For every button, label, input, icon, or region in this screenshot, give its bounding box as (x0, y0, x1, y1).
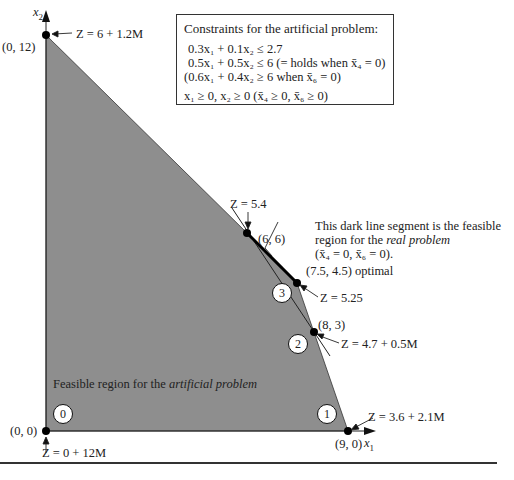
constraints-title: Constraints for the artificial problem: (184, 21, 393, 37)
step-circle-3: 3 (272, 283, 292, 303)
constraint-row-3: (0.6x₁ + 0.4x₂ ≥ 6 when x̄₆ = 0) (184, 70, 393, 84)
x-axis-arrow-icon (364, 427, 376, 435)
vertex-8-3 (310, 328, 318, 336)
constraint-row-2: 0.5x₁ + 0.5x₂ ≤ 6 (= holds when x̄₄ = 0) (188, 56, 393, 70)
constraints-box: Constraints for the artificial problem: … (176, 14, 394, 105)
coord-label-7.5-4.5: (7.5, 4.5) optimal (306, 264, 393, 278)
y-axis-arrow-icon (42, 10, 50, 22)
bottom-divider (0, 462, 497, 464)
coord-label-6-6: (6, 6) (258, 232, 285, 246)
segment-annotation-line2: region for the real problem (315, 233, 450, 247)
vertex-0-12 (42, 31, 50, 39)
vertex-9-0 (344, 427, 352, 435)
vertex-0-0 (42, 427, 50, 435)
step-circle-1: 1 (317, 404, 337, 424)
coord-label-0-0: (0, 0) (10, 424, 37, 438)
step-circle-0: 0 (53, 404, 73, 424)
vertex-7.5-4.5 (293, 279, 301, 287)
feasible-region-label: Feasible region for the artificial probl… (53, 377, 257, 391)
coord-label-8-3: (8, 3) (318, 318, 345, 332)
vertex-6-6 (243, 229, 251, 237)
segment-annotation-line3: (x̄₄ = 0, x̄₆ = 0). (315, 247, 393, 261)
z-label-6-6: Z = 5.4 (230, 197, 267, 211)
segment-annotation-line1: This dark line segment is the feasible (315, 219, 501, 233)
z-label-9-0: Z = 3.6 + 2.1M (368, 410, 445, 424)
y-axis-label: x2 (33, 5, 43, 24)
coord-label-9-0: (9, 0) (335, 437, 362, 451)
z-label-7.5-4.5: Z = 5.25 (320, 291, 363, 305)
coord-label-0-12: (0, 12) (2, 40, 35, 54)
z-label-0-0: Z = 0 + 12M (42, 446, 106, 460)
constraint-row-4: x₁ ≥ 0, x₂ ≥ 0 (x̄₄ ≥ 0, x̄₆ ≥ 0) (184, 89, 393, 103)
constraint-row-1: 0.3x₁ + 0.1x₂ ≤ 2.7 (188, 42, 393, 56)
x-axis-label: x1 (364, 436, 374, 455)
z-label-8-3: Z = 4.7 + 0.5M (341, 337, 418, 351)
z-label-0-12: Z = 6 + 1.2M (76, 27, 143, 41)
step-circle-2: 2 (288, 334, 308, 354)
